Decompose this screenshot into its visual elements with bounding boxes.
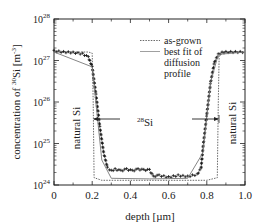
left-region-label: natural Si — [70, 107, 82, 149]
x-tick-label: 0.4 — [124, 189, 138, 201]
concentration-depth-chart: 00.20.40.60.81.010241025102610271028 dep… — [0, 0, 259, 224]
y-tick-label: 1025 — [33, 137, 51, 150]
x-tick-label: 0.8 — [200, 189, 214, 201]
y-tick-label: 1028 — [33, 12, 51, 25]
annotations: natural Si natural Si 28Si — [70, 102, 238, 149]
y-tick-label: 1026 — [33, 95, 51, 108]
plot-frame — [54, 19, 245, 185]
legend: as-grownbest fit ofdiffusionprofile — [140, 35, 203, 79]
center-region-label: 28Si — [137, 116, 153, 128]
plot-border — [54, 19, 245, 185]
legend-label: best fit of — [164, 46, 203, 57]
axis-ticks: 00.20.40.60.81.010241025102610271028 — [33, 12, 252, 201]
right-region-label: natural Si — [226, 102, 238, 144]
x-axis-label: depth [µm] — [125, 210, 174, 222]
left-arrow-icon — [93, 117, 120, 121]
legend-label: as-grown — [164, 35, 201, 46]
x-tick-label: 0.6 — [162, 189, 176, 201]
x-tick-label: 1.0 — [238, 189, 252, 201]
y-tick-label: 1024 — [33, 178, 51, 191]
legend-label: diffusion — [164, 57, 200, 68]
x-tick-label: 0.2 — [85, 189, 99, 201]
y-axis-label: concentration of 30Si [m-3] — [10, 44, 22, 159]
legend-label: profile — [164, 68, 191, 79]
x-tick-label: 0 — [51, 189, 57, 201]
y-tick-label: 1027 — [33, 54, 51, 67]
